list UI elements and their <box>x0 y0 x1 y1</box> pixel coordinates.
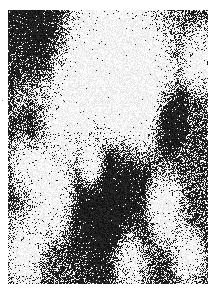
noise-texture-image <box>8 10 208 284</box>
stray-speck <box>2 100 3 101</box>
